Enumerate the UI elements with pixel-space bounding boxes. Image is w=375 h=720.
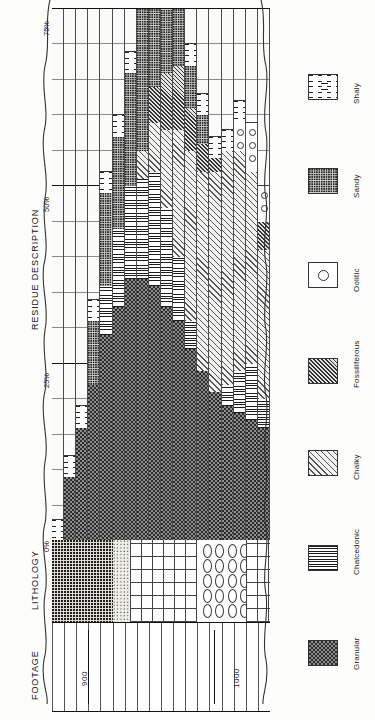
residue-segment-shaly	[88, 299, 99, 321]
residue-segment-chalky	[173, 129, 184, 258]
residue-segment-sandy	[161, 8, 172, 73]
residue-segment-fossil	[209, 157, 220, 172]
residue-segment-chalky	[197, 171, 208, 371]
residue-column	[173, 9, 185, 541]
residue-segment-shaly	[64, 455, 75, 477]
legend-label-shaly: Shaly	[352, 83, 361, 104]
footage-mark-900: 900	[80, 671, 89, 686]
footage-tick	[64, 622, 65, 712]
oolite-oval-icon	[203, 559, 212, 573]
footage-tick	[246, 622, 247, 712]
residue-column	[258, 9, 270, 541]
footage-tick	[100, 622, 101, 712]
lithology-unit	[113, 540, 131, 622]
oolite-oval-icon	[228, 574, 237, 588]
oolite-oval-icon	[203, 604, 212, 618]
residue-segment-chalcedonic	[173, 256, 184, 321]
residue-segment-granular	[88, 384, 99, 541]
residue-segment-granular	[173, 320, 184, 541]
legend: GranularChalcedonicChalkyFossiliferousOo…	[286, 0, 375, 720]
legend-label-fossil: Fossiliferous	[352, 340, 361, 388]
residue-segment-sandy	[173, 8, 184, 66]
well-log-figure: RESIDUE DESCRIPTION LITHOLOGY FOOTAGE 75…	[0, 0, 375, 720]
residue-segment-shaly	[209, 136, 220, 158]
residue-column	[161, 9, 173, 541]
residue-segment-chalky	[137, 150, 148, 179]
oolite-oval-icon	[228, 559, 237, 573]
footage-frame-line	[52, 711, 270, 712]
lithology-unit	[246, 540, 270, 622]
oolite-circle-icon	[249, 129, 256, 136]
residue-segment-fossil	[197, 143, 208, 172]
oolite-oval-icon	[203, 544, 212, 558]
lithology-unit	[130, 540, 199, 622]
footage-band: 900 1000	[52, 622, 270, 712]
residue-segment-shaly	[185, 43, 196, 65]
residue-segment-granular	[100, 334, 111, 541]
oolite-circle-icon	[237, 142, 244, 149]
footage-major-tick	[88, 630, 89, 704]
residue-segment-chalky	[209, 171, 220, 392]
residue-segment-chalky	[222, 150, 233, 385]
log-plot: 900 1000	[52, 8, 270, 712]
residue-segment-chalcedonic	[258, 398, 269, 427]
footage-tick	[185, 622, 186, 712]
shaly-dash-icon	[321, 83, 328, 84]
legend-label-sandy: Sandy	[352, 174, 361, 198]
residue-segment-oolitic	[258, 185, 269, 221]
residue-segment-granular	[161, 306, 172, 541]
lithology-title: LITHOLOGY	[30, 550, 40, 610]
footage-tick	[258, 622, 259, 712]
residue-segment-fossil	[161, 72, 172, 130]
torn-edge-left	[40, 0, 52, 704]
footage-tick	[197, 622, 198, 712]
residue-segment-chalcedonic	[137, 178, 148, 278]
residue-column	[100, 9, 112, 541]
residue-column	[234, 9, 246, 541]
residue-segment-chalcedonic	[234, 370, 245, 414]
residue-segment-chalky	[161, 129, 172, 208]
residue-description-band	[52, 8, 270, 542]
residue-column	[137, 9, 149, 541]
oolite-oval-icon	[215, 574, 224, 588]
footage-tick	[173, 622, 174, 712]
residue-segment-shaly	[52, 519, 63, 541]
residue-segment-chalcedonic	[161, 207, 172, 307]
residue-column	[197, 9, 209, 541]
footage-tick	[222, 622, 223, 712]
residue-segment-granular	[209, 391, 220, 541]
residue-column	[209, 9, 221, 541]
oolite-circle-icon	[249, 142, 256, 149]
tick-25-percent: 25%	[42, 373, 51, 388]
legend-swatch-fossil	[308, 358, 338, 384]
residue-segment-sandy	[125, 72, 136, 186]
oolite-oval-icon	[203, 589, 212, 603]
legend-label-oolitic: Oolitic	[352, 268, 361, 292]
residue-segment-granular	[149, 285, 160, 541]
oolite-circle-icon	[318, 270, 329, 281]
residue-segment-granular	[234, 412, 245, 541]
residue-column	[76, 9, 88, 541]
footage-tick	[125, 622, 126, 712]
residue-segment-chalcedonic	[222, 384, 233, 406]
residue-segment-fossil	[185, 107, 196, 151]
oolite-oval-icon	[228, 589, 237, 603]
residue-segment-chalky	[258, 249, 269, 399]
residue-segment-shaly	[125, 51, 136, 73]
legend-label-granular: Granular	[352, 637, 361, 670]
residue-segment-granular	[185, 348, 196, 541]
oolite-oval-icon	[228, 604, 237, 618]
legend-swatch-sandy	[308, 168, 338, 194]
footage-tick	[161, 622, 162, 712]
residue-segment-sandy	[185, 65, 196, 109]
footage-mark-1000: 1000	[232, 668, 241, 688]
footage-major-tick	[214, 630, 215, 704]
residue-segment-granular	[258, 427, 269, 541]
footage-tick	[149, 622, 150, 712]
residue-segment-shaly	[76, 405, 87, 427]
footage-frame-line	[52, 622, 270, 623]
residue-description-title: RESIDUE DESCRIPTION	[30, 209, 40, 330]
legend-swatch-chalcedonic	[308, 545, 338, 571]
residue-segment-fossil	[258, 221, 269, 250]
oolite-circle-icon	[249, 155, 256, 162]
